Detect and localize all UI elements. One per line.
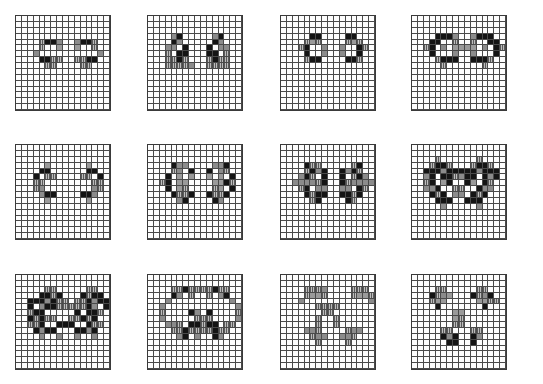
- grid-cell: [369, 363, 375, 369]
- panel-10: [147, 274, 243, 370]
- panel-12: [411, 274, 507, 370]
- grid-cell: [236, 363, 242, 369]
- panel-2: [147, 15, 243, 111]
- panel-3: [280, 15, 376, 111]
- grid-cell: [236, 104, 242, 110]
- cell-grid: [411, 15, 507, 111]
- cell-grid: [15, 15, 111, 111]
- grid-cell: [500, 233, 506, 239]
- panel-1: [15, 15, 111, 111]
- grid-cell: [369, 104, 375, 110]
- panel-4: [411, 15, 507, 111]
- cell-grid: [280, 144, 376, 240]
- cell-grid: [15, 144, 111, 240]
- cell-grid: [280, 274, 376, 370]
- grid-cell: [236, 233, 242, 239]
- cell-grid: [411, 274, 507, 370]
- grid-cell: [104, 363, 110, 369]
- grid-cell: [500, 104, 506, 110]
- cell-grid: [147, 274, 243, 370]
- cell-grid: [147, 15, 243, 111]
- grid-cell: [500, 363, 506, 369]
- panel-8: [411, 144, 507, 240]
- cell-grid: [15, 274, 111, 370]
- panel-7: [280, 144, 376, 240]
- grid-cell: [104, 104, 110, 110]
- panel-11: [280, 274, 376, 370]
- panel-9: [15, 274, 111, 370]
- grid-cell: [369, 233, 375, 239]
- cell-grid: [411, 144, 507, 240]
- cell-grid: [280, 15, 376, 111]
- panel-5: [15, 144, 111, 240]
- cell-grid: [147, 144, 243, 240]
- grid-cell: [104, 233, 110, 239]
- panel-6: [147, 144, 243, 240]
